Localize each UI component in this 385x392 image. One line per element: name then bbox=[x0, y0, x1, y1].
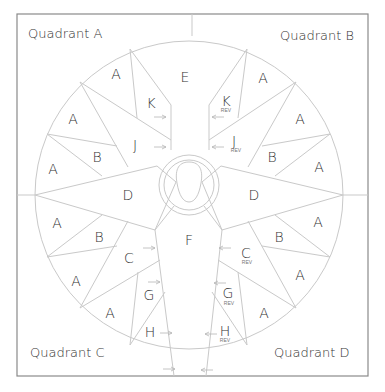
piece-label-j: J bbox=[133, 137, 137, 153]
outer-frame bbox=[17, 14, 368, 376]
rev-label: REV bbox=[220, 337, 231, 343]
quadrant-a-label: Quadrant A bbox=[28, 26, 102, 41]
piece-label-a: A bbox=[71, 273, 81, 289]
seam bbox=[80, 82, 128, 167]
seam bbox=[248, 221, 296, 308]
seam bbox=[80, 221, 128, 308]
quadrant-d-label: Quadrant D bbox=[274, 345, 349, 360]
seam bbox=[238, 49, 247, 118]
piece-label-f: F bbox=[185, 232, 193, 248]
piece-label-a: A bbox=[52, 215, 62, 231]
piece-label-d: D bbox=[249, 187, 260, 203]
piece-label-b: B bbox=[267, 149, 276, 165]
piece-label-a: A bbox=[295, 111, 305, 127]
seam bbox=[262, 134, 330, 146]
piece-label-g: G bbox=[144, 287, 155, 303]
seam bbox=[262, 246, 330, 257]
piece-f-outline bbox=[155, 230, 222, 376]
seam bbox=[47, 134, 117, 146]
piece-label-c: C bbox=[124, 250, 134, 266]
piece-label-a: A bbox=[258, 70, 268, 86]
seam bbox=[130, 49, 137, 118]
piece-label-a: A bbox=[48, 161, 58, 177]
piece-label-g-rev: G bbox=[223, 285, 234, 301]
head-shape bbox=[176, 162, 201, 202]
rev-label: REV bbox=[224, 300, 235, 306]
quilt-pattern-diagram: Quadrant A Quadrant B Quadrant C Quadran… bbox=[0, 0, 385, 392]
piece-label-a: A bbox=[295, 267, 305, 283]
piece-label-d: D bbox=[123, 187, 134, 203]
piece-label-a: A bbox=[259, 305, 269, 321]
rev-label: REV bbox=[242, 259, 253, 265]
piece-label-b: B bbox=[92, 149, 101, 165]
seam bbox=[80, 82, 171, 140]
rev-label: REV bbox=[221, 107, 232, 113]
halo-outer bbox=[159, 155, 219, 215]
quadrant-b-label: Quadrant B bbox=[280, 28, 354, 43]
outer-circle bbox=[35, 41, 343, 349]
piece-label-h: H bbox=[145, 324, 156, 340]
piece-label-a: A bbox=[105, 305, 115, 321]
quadrant-c-label: Quadrant C bbox=[30, 345, 105, 360]
piece-label-b: B bbox=[94, 229, 103, 245]
piece-label-e: E bbox=[181, 69, 190, 85]
piece-label-a: A bbox=[313, 214, 323, 230]
piece-label-a: A bbox=[68, 111, 78, 127]
piece-label-a: A bbox=[314, 159, 324, 175]
piece-label-a: A bbox=[111, 66, 121, 82]
rev-label: REV bbox=[231, 147, 242, 153]
piece-label-k: K bbox=[146, 95, 156, 111]
piece-label-b: B bbox=[274, 229, 283, 245]
seam bbox=[47, 246, 117, 257]
